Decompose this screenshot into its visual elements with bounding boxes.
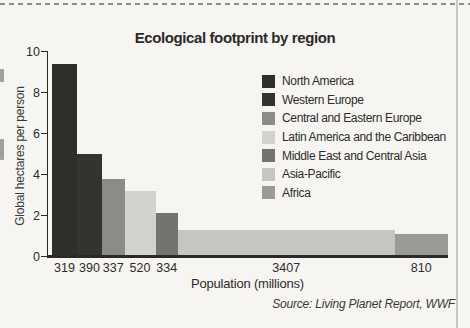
legend-row-asia-pacific: Asia-Pacific <box>262 165 446 184</box>
bar-north-america <box>52 64 77 257</box>
legend-swatch-latin-america-and-the-caribbean <box>262 131 275 144</box>
legend-label-north-america: North America <box>282 74 353 88</box>
y-tick-10 <box>41 51 47 53</box>
y-tick-label-8: 8 <box>16 87 40 100</box>
bar-latin-america-and-the-caribbean <box>125 191 156 257</box>
y-tick-label-6: 6 <box>16 128 40 141</box>
legend-label-africa: Africa <box>282 186 311 200</box>
legend-swatch-central-and-eastern-europe <box>262 112 275 125</box>
scan-artifact <box>0 69 4 82</box>
legend-label-middle-east-and-central-asia: Middle East and Central Asia <box>282 149 426 163</box>
legend-label-western-europe: Western Europe <box>282 93 364 107</box>
y-tick-6 <box>41 133 47 135</box>
bar-central-and-eastern-europe <box>102 179 125 257</box>
scan-artifact <box>0 139 4 160</box>
x-axis-label: Population (millions) <box>47 276 448 291</box>
chart-title: Ecological footprint by region <box>0 29 470 46</box>
legend-label-latin-america-and-the-caribbean: Latin America and the Caribbean <box>282 130 446 144</box>
legend-row-central-and-eastern-europe: Central and Eastern Europe <box>262 109 446 128</box>
y-tick-label-2: 2 <box>16 210 40 223</box>
legend-swatch-north-america <box>262 75 275 88</box>
y-tick-4 <box>41 174 47 176</box>
bar-asia-pacific <box>178 230 395 257</box>
legend-swatch-asia-pacific <box>262 168 275 181</box>
legend-row-africa: Africa <box>262 184 446 203</box>
legend-row-latin-america-and-the-caribbean: Latin America and the Caribbean <box>262 128 446 147</box>
page-border-line <box>456 0 458 328</box>
y-tick-label-0: 0 <box>16 251 40 264</box>
bar-africa <box>395 234 449 257</box>
x-axis-line <box>47 255 449 257</box>
legend: North AmericaWestern EuropeCentral and E… <box>262 72 446 202</box>
y-tick-label-10: 10 <box>16 46 40 59</box>
y-tick-8 <box>41 92 47 94</box>
legend-label-asia-pacific: Asia-Pacific <box>282 167 340 181</box>
legend-swatch-africa <box>262 186 275 199</box>
population-label-africa: 810 <box>387 261 457 275</box>
legend-label-central-and-eastern-europe: Central and Eastern Europe <box>282 111 422 125</box>
dashed-divider <box>0 3 470 5</box>
legend-swatch-western-europe <box>262 93 275 106</box>
source-note: Source: Living Planet Report, WWF <box>272 297 455 311</box>
legend-swatch-middle-east-and-central-asia <box>262 149 275 162</box>
y-tick-2 <box>41 215 47 217</box>
y-axis-label: Global hectares per person <box>13 86 27 226</box>
y-axis-line <box>47 51 49 257</box>
legend-row-north-america: North America <box>262 72 446 91</box>
legend-row-middle-east-and-central-asia: Middle East and Central Asia <box>262 146 446 165</box>
scanned-chart-page: Ecological footprint by region Global he… <box>0 0 470 328</box>
population-label-asia-pacific: 3407 <box>170 261 403 275</box>
bar-middle-east-and-central-asia <box>156 213 179 256</box>
legend-row-western-europe: Western Europe <box>262 91 446 110</box>
y-tick-label-4: 4 <box>16 169 40 182</box>
bar-western-europe <box>77 154 102 257</box>
